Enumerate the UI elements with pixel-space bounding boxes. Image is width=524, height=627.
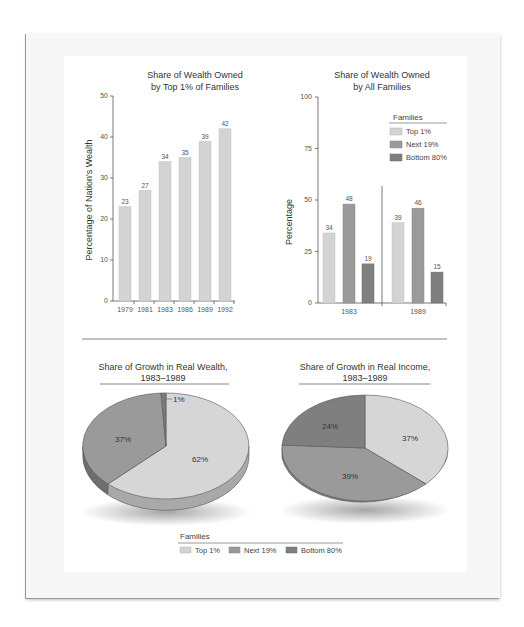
- ytick: 0: [308, 299, 312, 306]
- chart2-bars: [323, 204, 443, 303]
- chart2-y-ticks: 0 25 50 75 100: [300, 93, 318, 306]
- ytick: 40: [100, 133, 108, 140]
- bar-1981: [139, 190, 151, 301]
- data-label: 39: [394, 214, 402, 221]
- pie1-label-top1: 62%: [192, 455, 208, 464]
- chart1-y-ticks: 0 10 20 30 40 50: [100, 92, 113, 304]
- chart1-y-axis-label: Percentage of Nation's Wealth: [84, 139, 94, 260]
- bottom-legend-swatch-top1: [180, 547, 191, 553]
- chart-top1-wealth: Share of Wealth Owned by Top 1% of Famil…: [84, 70, 243, 313]
- legend-title: Families: [393, 113, 423, 122]
- legend-swatch-top1: [390, 128, 402, 135]
- bottom-legend: Families Top 1% Next 19% Bottom 80%: [178, 532, 343, 555]
- chart1-data-labels: 23 27 34 35 39 42: [121, 120, 229, 205]
- figure-canvas: Share of Wealth Owned by Top 1% of Famil…: [0, 0, 524, 627]
- xtick: 1992: [217, 306, 233, 313]
- data-label: 35: [181, 149, 189, 156]
- bottom-legend-swatch-bottom80: [286, 547, 297, 553]
- chart-growth-real-income: Share of Growth in Real Income, 1983–198…: [279, 362, 451, 524]
- xtick: 1986: [177, 306, 193, 313]
- bottom-legend-title: Families: [180, 532, 210, 541]
- legend-label-bottom80: Bottom 80%: [406, 153, 447, 162]
- xtick: 1981: [137, 306, 153, 313]
- ytick: 100: [300, 93, 312, 100]
- ytick: 25: [304, 248, 312, 255]
- chart2-y-axis-label: Percentage: [284, 199, 294, 245]
- data-label: 48: [345, 195, 353, 202]
- ytick: 50: [304, 196, 312, 203]
- bar-1989-next19: [412, 208, 424, 303]
- bar-1989: [199, 141, 211, 301]
- chart2-title-line1: Share of Wealth Owned: [334, 70, 429, 80]
- bar-1983-bottom80: [362, 264, 374, 303]
- pie2-label-top1: 37%: [402, 434, 418, 443]
- data-label: 19: [364, 255, 372, 262]
- ytick: 20: [100, 215, 108, 222]
- ytick: 10: [100, 256, 108, 263]
- legend-swatch-next19: [390, 141, 402, 148]
- chart1-x-tick-marks: [134, 301, 234, 304]
- bottom-legend-label-bottom80: Bottom 80%: [301, 546, 342, 555]
- chart1-x-ticks: 1979 1981 1983 1986 1989 1992: [117, 306, 233, 313]
- legend-label-top1: Top 1%: [406, 127, 431, 136]
- chart2-legend: Families Top 1% Next 19% Bottom 80%: [389, 113, 447, 162]
- ytick: 30: [100, 174, 108, 181]
- data-label: 15: [433, 263, 441, 270]
- pie2-title-line2: 1983–1989: [342, 373, 387, 383]
- xtick: 1983: [341, 308, 357, 315]
- pie2-label-bottom80: 24%: [322, 422, 338, 431]
- ytick: 75: [304, 145, 312, 152]
- pie2-title-line1: Share of Growth in Real Income,: [300, 362, 431, 372]
- chart1-title-line2: by Top 1% of Families: [151, 82, 239, 92]
- pie1-label-bottom80: 1%: [173, 395, 185, 404]
- bottom-legend-swatch-next19: [229, 547, 240, 553]
- bar-1983-next19: [343, 204, 355, 303]
- data-label: 39: [201, 133, 209, 140]
- data-label: 46: [414, 199, 422, 206]
- chart1-title-line1: Share of Wealth Owned: [147, 70, 242, 80]
- bar-1989-bottom80: [431, 272, 443, 303]
- pie1-label-next19: 37%: [115, 435, 131, 444]
- xtick: 1983: [157, 306, 173, 313]
- xtick: 1989: [410, 308, 426, 315]
- legend-swatch-bottom80: [390, 154, 402, 161]
- ytick: 50: [100, 92, 108, 99]
- data-label: 34: [325, 224, 333, 231]
- pie1-title-line1: Share of Growth in Real Wealth,: [99, 362, 228, 372]
- ytick: 0: [104, 297, 108, 304]
- chart2-title-line2: by All Families: [353, 82, 411, 92]
- data-label: 23: [121, 198, 129, 205]
- bar-1992: [219, 129, 231, 301]
- bar-1989-top1: [392, 223, 404, 303]
- data-label: 42: [221, 120, 229, 127]
- legend-label-next19: Next 19%: [406, 140, 439, 149]
- chart2-x-ticks: 1983 1989: [341, 308, 426, 315]
- bar-1986: [179, 158, 191, 302]
- chart-growth-real-wealth: Share of Growth in Real Wealth, 1983–198…: [80, 362, 252, 526]
- bar-1983: [159, 162, 171, 301]
- chart1-bars: [119, 129, 231, 301]
- pie1-title-line2: 1983–1989: [140, 373, 185, 383]
- pie2-label-next19: 39%: [342, 472, 358, 481]
- data-label: 27: [141, 182, 149, 189]
- bottom-legend-label-next19: Next 19%: [244, 546, 277, 555]
- xtick: 1979: [117, 306, 133, 313]
- bar-1979: [119, 207, 131, 301]
- bottom-legend-label-top1: Top 1%: [195, 546, 220, 555]
- chart-all-families-wealth: Share of Wealth Owned by All Families Pe…: [284, 70, 447, 315]
- data-label: 34: [161, 153, 169, 160]
- xtick: 1989: [197, 306, 213, 313]
- bar-1983-top1: [323, 233, 335, 303]
